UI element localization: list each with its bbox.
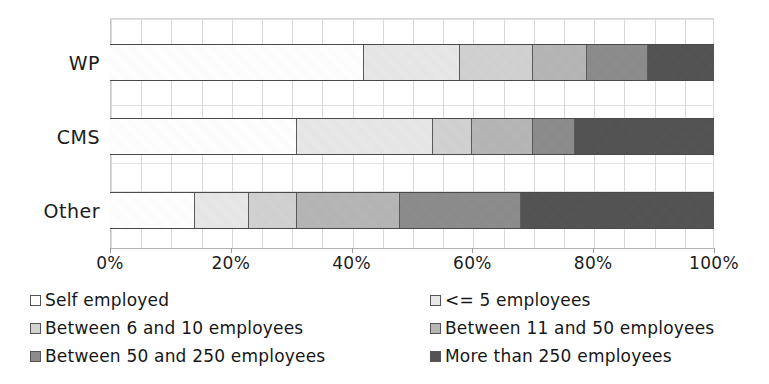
bar-segment[interactable] <box>110 45 364 80</box>
legend-item[interactable]: More than 250 employees <box>430 346 750 366</box>
legend-item[interactable]: <= 5 employees <box>430 290 750 310</box>
x-axis-tick-label: 80% <box>574 253 613 273</box>
category-label-other: Other <box>0 200 100 222</box>
chart-legend: Self employed<= 5 employeesBetween 6 and… <box>30 286 750 370</box>
legend-swatch-icon <box>430 295 441 306</box>
bar-segment[interactable] <box>110 119 297 154</box>
bar-row-wp[interactable] <box>110 44 714 81</box>
x-axis-tick-label: 0% <box>96 253 124 273</box>
legend-swatch-icon <box>30 323 41 334</box>
legend-item[interactable]: Self employed <box>30 290 430 310</box>
bar-segment[interactable] <box>533 119 575 154</box>
legend-label: <= 5 employees <box>445 290 591 310</box>
legend-swatch-icon <box>430 323 441 334</box>
bar-segment[interactable] <box>110 193 195 228</box>
legend-swatch-icon <box>430 351 441 362</box>
bar-segment[interactable] <box>460 45 532 80</box>
legend-item[interactable]: Between 50 and 250 employees <box>30 346 430 366</box>
bar-segment[interactable] <box>587 45 647 80</box>
legend-item[interactable]: Between 11 and 50 employees <box>430 318 750 338</box>
bar-segment[interactable] <box>533 45 587 80</box>
legend-swatch-icon <box>30 351 41 362</box>
legend-label: More than 250 employees <box>445 346 672 366</box>
legend-label: Between 6 and 10 employees <box>45 318 303 338</box>
bar-segment[interactable] <box>433 119 472 154</box>
bar-segment[interactable] <box>648 45 714 80</box>
bar-segment[interactable] <box>297 193 400 228</box>
bar-segment[interactable] <box>472 119 532 154</box>
legend-label: Self employed <box>45 290 169 310</box>
x-axis-tick-label: 20% <box>211 253 250 273</box>
legend-label: Between 50 and 250 employees <box>45 346 325 366</box>
bar-segment[interactable] <box>297 119 433 154</box>
legend-label: Between 11 and 50 employees <box>445 318 714 338</box>
bar-segment[interactable] <box>521 193 714 228</box>
bar-segment[interactable] <box>364 45 461 80</box>
legend-item[interactable]: Between 6 and 10 employees <box>30 318 430 338</box>
category-label-wp: WP <box>0 52 100 74</box>
bar-row-cms[interactable] <box>110 118 714 155</box>
bar-segment[interactable] <box>249 193 297 228</box>
stacked-bar-chart: 0%20%40%60%80%100% WP CMS Other Self emp… <box>0 0 769 384</box>
bar-row-other[interactable] <box>110 192 714 229</box>
legend-swatch-icon <box>30 295 41 306</box>
x-axis-line <box>110 248 715 249</box>
x-axis-tick-label: 100% <box>689 253 739 273</box>
bar-segment[interactable] <box>575 119 714 154</box>
bar-segment[interactable] <box>400 193 521 228</box>
x-axis-tick-label: 40% <box>332 253 371 273</box>
x-axis-tick-label: 60% <box>453 253 492 273</box>
bar-segment[interactable] <box>195 193 249 228</box>
category-label-cms: CMS <box>0 126 100 148</box>
